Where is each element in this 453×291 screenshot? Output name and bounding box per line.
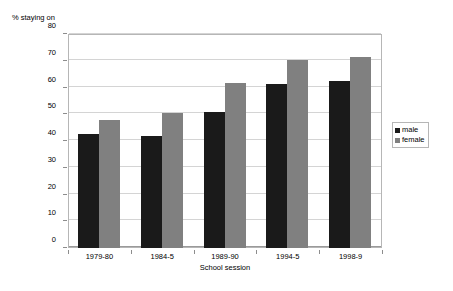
x-tick-mark [68, 250, 69, 254]
y-axis-ticks: 01020304050607080 [0, 34, 64, 248]
y-tick-mark [63, 33, 67, 34]
x-tick-label: 1989-90 [194, 252, 257, 261]
x-tick-label: 1979-80 [68, 252, 131, 261]
y-tick-label: 40 [0, 129, 56, 137]
x-tick-label: 1994-5 [256, 252, 319, 261]
legend-item: female [395, 135, 425, 145]
chart-legend: malefemale [392, 122, 429, 148]
y-tick-label: 10 [0, 209, 56, 217]
y-tick-mark [63, 113, 67, 114]
x-tick-label: 1984-5 [131, 252, 194, 261]
gridline-50 [69, 112, 381, 113]
legend-label: male [402, 125, 418, 135]
y-tick-label: 30 [0, 156, 56, 164]
gridline-20 [69, 193, 381, 194]
y-tick-mark [63, 247, 67, 248]
gridline-10 [69, 219, 381, 220]
x-tick-mark [382, 250, 383, 254]
y-tick-mark [63, 220, 67, 221]
gridline-70 [69, 59, 381, 60]
gridline-60 [69, 86, 381, 87]
gridline-0 [69, 246, 381, 247]
legend-swatch-male [395, 128, 400, 133]
bar-chart: % staying on 01020304050607080 1979-8019… [0, 0, 453, 291]
x-axis-ticks: 1979-801984-51989-901994-51998-9 [68, 250, 382, 264]
y-tick-label: 50 [0, 102, 56, 110]
x-tick-label: 1998-9 [319, 252, 382, 261]
y-tick-mark [63, 60, 67, 61]
y-tick-label: 60 [0, 76, 56, 84]
y-tick-mark [63, 167, 67, 168]
y-tick-mark [63, 140, 67, 141]
plot-area [68, 34, 382, 248]
x-axis-title: School session [68, 263, 382, 272]
y-tick-label: 80 [0, 22, 56, 30]
gridline-80 [69, 33, 381, 34]
y-tick-mark [63, 194, 67, 195]
legend-swatch-female [395, 138, 400, 143]
gridline-30 [69, 166, 381, 167]
y-tick-label: 70 [0, 49, 56, 57]
y-tick-label: 20 [0, 183, 56, 191]
y-tick-mark [63, 87, 67, 88]
gridline-40 [69, 139, 381, 140]
legend-label: female [402, 135, 425, 145]
y-tick-label: 0 [0, 236, 56, 244]
legend-item: male [395, 125, 425, 135]
